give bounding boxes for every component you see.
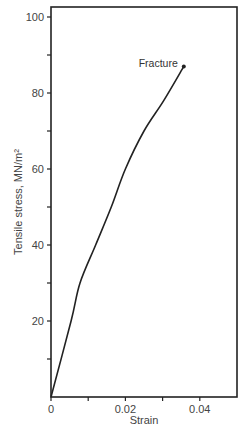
stress-strain-chart: 20406080100 00.020.04 Fracture Strain Te… — [0, 0, 246, 436]
y-tick-label: 60 — [32, 163, 44, 175]
fracture-point-marker — [182, 64, 186, 68]
y-tick-label: 40 — [32, 239, 44, 251]
fracture-annotation: Fracture — [139, 57, 178, 69]
y-axis-label: Tensile stress, MN/m² — [12, 149, 24, 255]
x-tick-label: 0.04 — [189, 403, 210, 415]
x-tick-label: 0 — [48, 403, 54, 415]
y-tick-label: 100 — [26, 11, 44, 23]
y-tick-label: 20 — [32, 315, 44, 327]
x-axis-ticks: 00.020.04 — [48, 397, 211, 415]
x-axis-label: Strain — [130, 414, 159, 426]
y-axis-ticks: 20406080100 — [26, 11, 51, 359]
y-tick-label: 80 — [32, 87, 44, 99]
data-line — [51, 66, 184, 397]
